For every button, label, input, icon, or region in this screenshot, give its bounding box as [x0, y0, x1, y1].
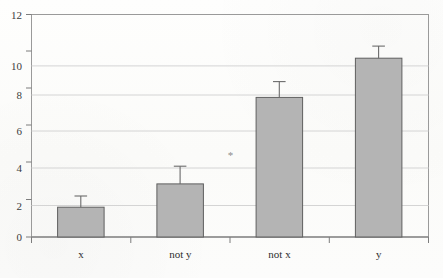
y-tick-label-10: 10: [11, 60, 23, 72]
y-tick-label-12: 12: [11, 9, 22, 21]
x-category-label-0: x: [78, 248, 84, 260]
error-bars: [75, 46, 385, 207]
x-category-label-3: y: [376, 248, 382, 260]
error-bar-y: [372, 46, 385, 58]
bar-y[interactable]: [355, 58, 402, 237]
y-tick-label-2: 2: [17, 200, 23, 212]
y-axis-tick-labels: 12 10 8 6 4 2 0: [11, 9, 23, 244]
bar-not-x[interactable]: [256, 97, 303, 237]
x-category-label-1: not y: [169, 248, 192, 260]
bar-series: [58, 58, 402, 237]
x-axis-category-labels: x not y not x y: [78, 248, 382, 260]
y-axis-ticks: [26, 15, 32, 238]
x-axis-ticks: [32, 237, 429, 243]
bar-x[interactable]: [58, 207, 105, 237]
x-category-label-2: not x: [268, 248, 291, 260]
y-tick-label-6: 6: [17, 125, 23, 137]
y-tick-label-8: 8: [17, 89, 23, 101]
annotation-group: *: [228, 149, 234, 161]
bar-not-y[interactable]: [157, 184, 204, 237]
significance-asterisk: *: [228, 149, 234, 161]
y-tick-label-0: 0: [17, 231, 23, 243]
y-tick-label-4: 4: [17, 162, 23, 174]
bar-chart-plot: 12 10 8 6 4 2 0: [0, 0, 443, 278]
error-bar-not-y: [174, 166, 187, 184]
chart-figure: 12 10 8 6 4 2 0: [0, 0, 443, 278]
